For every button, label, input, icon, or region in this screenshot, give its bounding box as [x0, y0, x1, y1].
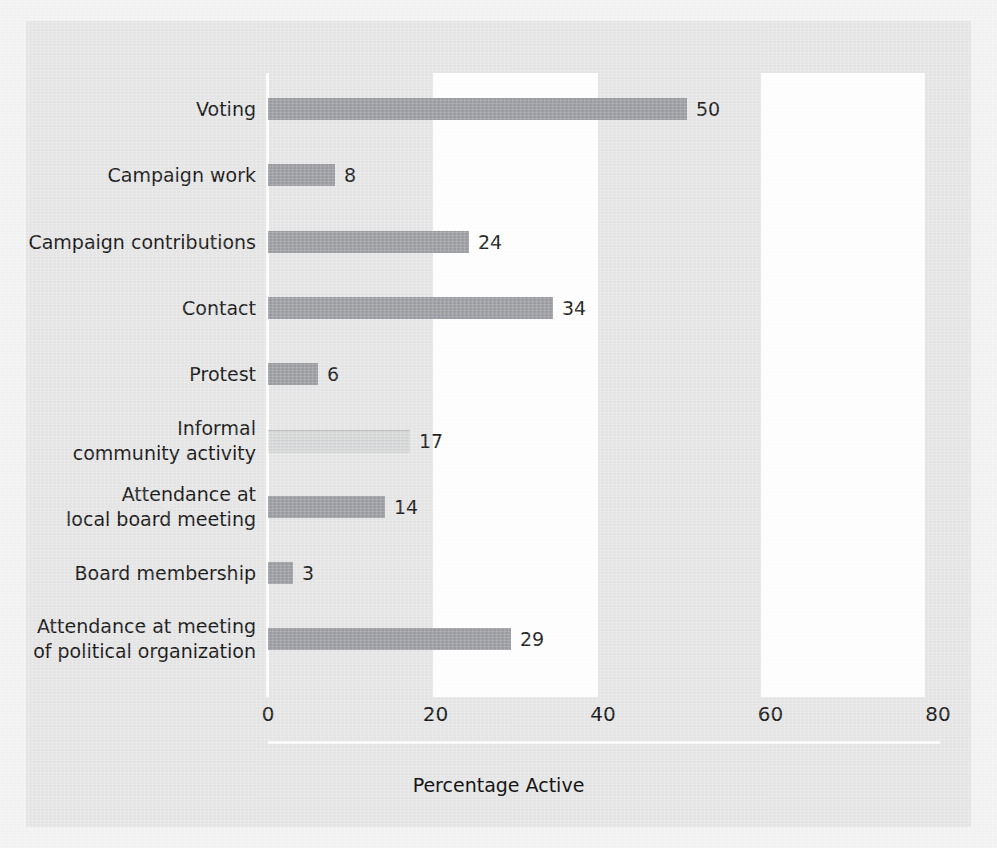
bar — [268, 562, 293, 584]
x-tick-label: 80 — [898, 702, 978, 726]
category-label: Attendance at local board meeting — [0, 482, 256, 532]
bar-value-label: 29 — [520, 628, 544, 650]
plot-area: 50Voting8Campaign work24Campaign contrib… — [0, 0, 997, 848]
bar-chart-figure: 50Voting8Campaign work24Campaign contrib… — [0, 0, 997, 848]
bar-value-label: 6 — [327, 363, 339, 385]
x-tick-label: 40 — [563, 702, 643, 726]
bar — [268, 430, 410, 453]
category-label: Campaign contributions — [0, 230, 256, 255]
x-axis-title: Percentage Active — [0, 774, 997, 796]
bar-value-label: 8 — [344, 164, 356, 186]
bar-value-label: 50 — [696, 98, 720, 120]
category-label: Attendance at meeting of political organ… — [0, 614, 256, 664]
category-label: Informal community activity — [0, 416, 256, 466]
bar-value-label: 14 — [394, 496, 418, 518]
bar — [268, 496, 385, 518]
bar — [268, 98, 687, 120]
bar — [268, 628, 511, 650]
bar-value-label: 17 — [419, 430, 443, 452]
category-label: Protest — [0, 362, 256, 387]
category-label: Voting — [0, 97, 256, 122]
x-tick-label: 20 — [396, 702, 476, 726]
x-tick-label: 60 — [731, 702, 811, 726]
category-label: Contact — [0, 296, 256, 321]
bar-value-label: 3 — [302, 562, 314, 584]
bar-value-label: 24 — [478, 231, 502, 253]
bar-value-label: 34 — [562, 297, 586, 319]
category-label: Campaign work — [0, 163, 256, 188]
category-label: Board membership — [0, 561, 256, 586]
bar — [268, 231, 469, 253]
bar — [268, 363, 318, 385]
bar — [268, 297, 553, 319]
x-tick-label: 0 — [228, 702, 308, 726]
bar — [268, 164, 335, 186]
